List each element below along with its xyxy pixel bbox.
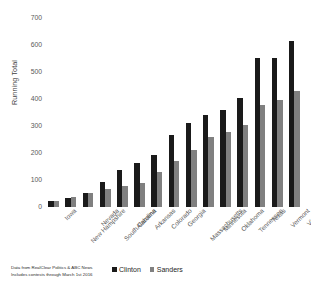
- legend-item-sanders[interactable]: Sanders: [150, 266, 183, 273]
- y-axis-tick-label: 300: [20, 123, 42, 130]
- legend-item-clinton[interactable]: Clinton: [112, 266, 141, 273]
- bar-sanders: [260, 105, 265, 207]
- bar-sanders: [226, 132, 231, 207]
- bar-group: [151, 18, 162, 207]
- y-axis-tick-label: 600: [20, 42, 42, 49]
- bar-sanders: [277, 100, 282, 207]
- chart-legend: ClintonSanders: [112, 266, 183, 273]
- y-axis-tick-label: 700: [20, 15, 42, 22]
- bar-group: [117, 18, 128, 207]
- bar-group: [169, 18, 180, 207]
- bar-group: [186, 18, 197, 207]
- bar-sanders: [174, 161, 179, 207]
- source-note-line-2: Includes contests through March 1st 2016: [11, 271, 121, 278]
- y-axis-tick-label: 200: [20, 150, 42, 157]
- plot-area: [45, 18, 303, 207]
- x-axis-tick-label: Iowa: [63, 207, 77, 221]
- bar-sanders: [191, 150, 196, 208]
- bar-sanders: [88, 193, 93, 207]
- bar-group: [272, 18, 283, 207]
- bar-group: [237, 18, 248, 207]
- bar-sanders: [157, 172, 162, 207]
- square-black-icon: [112, 267, 117, 272]
- bar-sanders: [122, 186, 127, 207]
- bar-group: [65, 18, 76, 207]
- y-axis-tick-label: 500: [20, 69, 42, 76]
- y-axis-tick-label: 100: [20, 177, 42, 184]
- bar-sanders: [71, 197, 76, 207]
- bar-group: [289, 18, 300, 207]
- source-note: Data from RealClear Politics & ABC News …: [11, 264, 121, 279]
- bar-group: [220, 18, 231, 207]
- bar-chart-figure: Running Total 0100200300400500600700 Iow…: [0, 0, 311, 295]
- bar-sanders: [140, 183, 145, 207]
- bar-group: [203, 18, 214, 207]
- bar-sanders: [243, 125, 248, 207]
- legend-label: Clinton: [119, 266, 141, 273]
- bar-group: [134, 18, 145, 207]
- bar-group: [83, 18, 94, 207]
- y-axis-tick-label: 400: [20, 96, 42, 103]
- source-note-line-1: Data from RealClear Politics & ABC News: [11, 264, 121, 271]
- bar-group: [255, 18, 266, 207]
- square-gray-icon: [150, 267, 155, 272]
- legend-label: Sanders: [157, 266, 183, 273]
- bar-sanders: [294, 91, 299, 207]
- bar-sanders: [105, 189, 110, 207]
- x-axis-tick-label: Texas: [270, 207, 287, 224]
- y-axis-tick-label: 0: [20, 204, 42, 211]
- y-axis-tick-labels: 0100200300400500600700: [20, 0, 42, 295]
- bar-group: [100, 18, 111, 207]
- bar-sanders: [208, 137, 213, 207]
- y-axis-title: Running Total: [10, 48, 19, 118]
- x-axis-tick-labels: IowaNew HampshireNevadaSouth CarolinaAla…: [45, 207, 303, 259]
- bar-group: [48, 18, 59, 207]
